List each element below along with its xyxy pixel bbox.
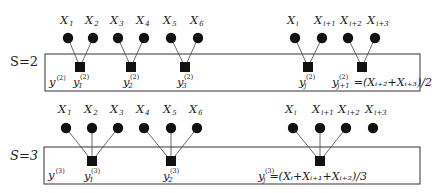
input-label: Xi+2	[339, 13, 362, 28]
input-node-circle-icon	[113, 123, 123, 133]
input-label: X2	[83, 102, 98, 117]
input-node-circle-icon	[290, 33, 300, 43]
input-node-circle-icon	[343, 33, 353, 43]
input-label: X6	[188, 102, 203, 117]
input-label: X4	[135, 102, 150, 117]
input-node-circle-icon	[341, 123, 351, 133]
input-label: X2	[84, 13, 99, 28]
coarse-graining-diagram: S=2X1X2X3X4X5X6XiXi+1Xi+2Xi+3y(2)1y(2)2y…	[0, 0, 442, 193]
input-node-circle-icon	[166, 33, 176, 43]
input-node-circle-icon	[193, 33, 203, 43]
aggregate-label: y(2)3	[176, 73, 194, 90]
input-label: X6	[189, 13, 204, 28]
input-node-circle-icon	[113, 33, 123, 43]
multiscale-diagram-canvas: S=2X1X2X3X4X5X6XiXi+1Xi+2Xi+3y(2)1y(2)2y…	[0, 0, 442, 193]
input-label: Xi	[286, 13, 298, 28]
aggregate-node-square-icon	[357, 62, 367, 72]
aggregate-label: y(3)2	[162, 167, 180, 184]
input-node-circle-icon	[87, 123, 97, 133]
input-node-circle-icon	[166, 123, 176, 133]
input-label: X5	[162, 13, 177, 28]
input-label: Xi+1	[311, 102, 334, 117]
input-label: Xi+3	[366, 13, 389, 28]
input-node-circle-icon	[88, 33, 98, 43]
input-node-circle-icon	[317, 33, 327, 43]
input-node-circle-icon	[61, 123, 71, 133]
input-label: X1	[57, 102, 72, 117]
aggregate-label: y(2)j	[298, 73, 316, 90]
scale-label: S=3	[10, 148, 38, 163]
input-node-circle-icon	[63, 33, 73, 43]
input-node-circle-icon	[192, 123, 202, 133]
input-label: X5	[162, 102, 177, 117]
input-node-circle-icon	[368, 123, 378, 133]
aggregate-node-square-icon	[303, 62, 313, 72]
input-node-circle-icon	[139, 123, 149, 133]
aggregate-node-square-icon	[180, 62, 190, 72]
input-label: Xi+2	[337, 102, 360, 117]
input-label: X4	[135, 13, 150, 28]
aggregate-label: y(2)1	[72, 73, 90, 90]
input-label: Xi	[284, 102, 296, 117]
aggregate-formula: =(Xᵢ+Xᵢ₊₁+Xᵢ₊₂)/3	[269, 170, 367, 183]
aggregate-label: y(2)j+1=(Xᵢ₊₂+Xᵢ₊₃)/2	[331, 73, 432, 90]
input-label: X3	[109, 102, 124, 117]
input-label: Xi+3	[364, 102, 387, 117]
aggregate-formula: =(Xᵢ₊₂+Xᵢ₊₃)/2	[354, 76, 432, 89]
input-node-circle-icon	[288, 123, 298, 133]
input-node-circle-icon	[315, 123, 325, 133]
scale-panel-3: S=3X1X2X3X4X5X6XiXi+1Xi+2Xi+3y(3)1y(3)2y…	[10, 102, 420, 184]
aggregate-label: y(3)j=(Xᵢ+Xᵢ₊₁+Xᵢ₊₂)/3	[257, 167, 367, 184]
aggregate-node-square-icon	[315, 156, 325, 166]
aggregate-label: y(3)1	[83, 167, 101, 184]
aggregate-node-square-icon	[166, 156, 176, 166]
aggregate-node-square-icon	[75, 62, 85, 72]
aggregate-label: y(2)2	[122, 73, 140, 90]
series-label: y(2)	[48, 74, 66, 89]
input-node-circle-icon	[370, 33, 380, 43]
aggregate-node-square-icon	[87, 156, 97, 166]
scale-panel-2: S=2X1X2X3X4X5X6XiXi+1Xi+2Xi+3y(2)1y(2)2y…	[10, 13, 432, 91]
series-label: y(3)	[47, 167, 65, 182]
scale-label: S=2	[10, 54, 38, 69]
input-label: X3	[109, 13, 124, 28]
input-node-circle-icon	[139, 33, 149, 43]
input-label: X1	[59, 13, 74, 28]
input-label: Xi+1	[313, 13, 336, 28]
aggregate-node-square-icon	[126, 62, 136, 72]
